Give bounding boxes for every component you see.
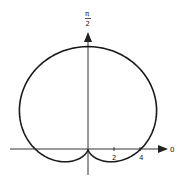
pi-over-2-denominator: 2 xyxy=(86,20,90,28)
polar-plot: 2 4 0 π 2 xyxy=(0,0,187,188)
tick-label-4: 4 xyxy=(139,154,144,162)
pi-over-2-numerator: π xyxy=(85,10,90,18)
tick-label-2: 2 xyxy=(112,154,116,162)
polar-axis-label: 0 xyxy=(170,146,174,154)
